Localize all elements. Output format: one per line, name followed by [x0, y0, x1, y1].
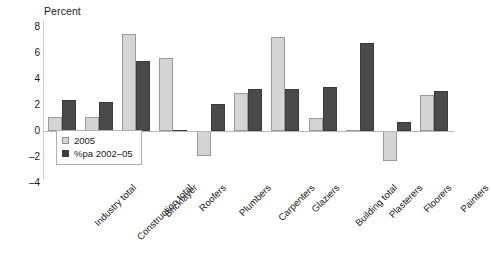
y-axis-tick-label: 2: [14, 100, 40, 110]
y-axis-tick-label: –2: [14, 152, 40, 162]
bar-series-container: [44, 20, 454, 138]
y-axis-title: Percent: [44, 5, 81, 17]
x-axis-tick-label: Roofers: [197, 182, 228, 213]
bar: [234, 93, 248, 131]
legend-swatch-icon: [62, 150, 69, 157]
bar: [434, 91, 448, 131]
bar: [211, 104, 225, 131]
y-axis-tick-label: 6: [14, 48, 40, 58]
bar: [285, 89, 299, 131]
legend-item-pa-2002-05: %pa 2002–05: [62, 147, 133, 160]
x-axis-tick-label: Carpenters: [276, 182, 317, 223]
legend-item-2005: 2005: [62, 134, 133, 147]
bar: [48, 117, 62, 131]
x-axis-tick-label: Painters: [459, 182, 491, 214]
x-axis-tick-label: Floorers: [421, 182, 453, 214]
bar: [197, 131, 211, 156]
x-axis-tick-label: Plumbers: [236, 182, 272, 218]
bar: [99, 102, 113, 131]
bar: [420, 95, 434, 131]
chart-legend: 2005 %pa 2002–05: [56, 130, 142, 165]
bar: [122, 34, 136, 132]
legend-swatch-icon: [62, 137, 69, 144]
bar: [383, 131, 397, 161]
bar: [85, 117, 99, 131]
bar: [248, 89, 262, 131]
y-axis-tick-label: 0: [14, 126, 40, 136]
legend-label: 2005: [74, 134, 95, 147]
bar: [323, 87, 337, 131]
bar: [62, 100, 76, 131]
y-axis-tick-label: –4: [14, 178, 40, 188]
plot-area: [44, 20, 454, 138]
bar: [397, 122, 411, 131]
bar: [309, 118, 323, 131]
legend-label: %pa 2002–05: [74, 147, 133, 160]
x-axis-tick-label: Industry total: [92, 182, 138, 228]
y-axis-ticks: –4–202468: [0, 0, 40, 254]
bar: [159, 58, 173, 131]
y-axis-tick-label: 8: [14, 22, 40, 32]
x-axis-labels: Industry totalConstruction totalBricklay…: [44, 182, 454, 254]
y-axis-tick-label: 4: [14, 74, 40, 84]
bar: [360, 43, 374, 131]
bar: [271, 37, 285, 131]
bar: [136, 61, 150, 131]
